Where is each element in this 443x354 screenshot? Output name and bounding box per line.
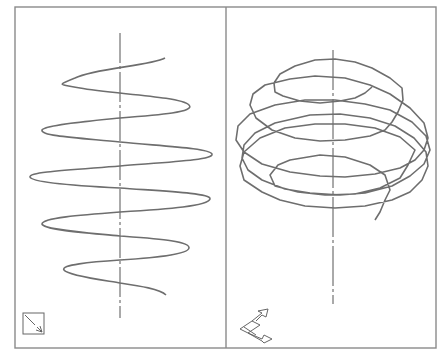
helix-drawing xyxy=(0,0,443,354)
ucs-3d-axes-icon xyxy=(240,309,272,343)
helix-front-curve xyxy=(30,58,212,295)
isometric-view-viewport[interactable] xyxy=(236,50,430,343)
ucs-broken-pencil-icon xyxy=(23,313,44,334)
front-view-viewport[interactable] xyxy=(23,33,212,334)
